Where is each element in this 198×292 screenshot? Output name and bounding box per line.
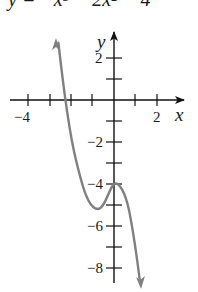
y-tick-label-2: 2: [95, 50, 103, 66]
x-axis-label: x: [174, 104, 184, 125]
cubic-graph-figure: y = −x³ − 2x² − 4: [0, 0, 198, 292]
y-axis-label: y: [95, 31, 106, 52]
y-tick-label-neg6: −6: [87, 218, 103, 234]
x-tick-label-neg4: −4: [14, 109, 30, 125]
cubic-curve: [58, 43, 140, 282]
x-tick-label-2: 2: [153, 109, 161, 125]
equation-title: y = −x³ − 2x² − 4: [8, 0, 151, 11]
plot-area: −4 2 x 2 −2 −4 −6 −8 y: [0, 0, 198, 292]
y-tick-label-neg8: −8: [87, 260, 103, 276]
y-tick-label-neg4: −4: [87, 176, 103, 192]
y-tick-label-neg2: −2: [87, 134, 103, 150]
